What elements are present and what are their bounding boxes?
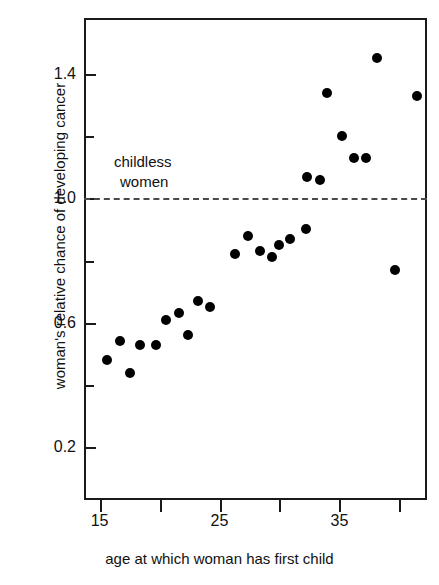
scatter-chart-figure: 0.20.61.01.4 152535 childless women woma… [0, 0, 439, 585]
x-tick-15 [100, 500, 102, 512]
data-point [151, 340, 161, 350]
data-point [267, 252, 277, 262]
scatter-points-layer [84, 18, 427, 500]
data-point [125, 368, 135, 378]
x-tick-35 [339, 500, 341, 512]
data-point [135, 340, 145, 350]
data-point [361, 153, 371, 163]
data-point [372, 53, 382, 63]
data-point [115, 336, 125, 346]
data-point [302, 172, 312, 182]
x-tick-minor-20 [160, 500, 162, 512]
x-tick-25 [220, 500, 222, 512]
data-point [315, 175, 325, 185]
x-tick-label-25: 25 [200, 512, 240, 530]
data-point [412, 91, 422, 101]
data-point [349, 153, 359, 163]
data-point [193, 296, 203, 306]
data-point [285, 234, 295, 244]
data-point [174, 308, 184, 318]
x-tick-minor-30 [279, 500, 281, 512]
data-point [243, 231, 253, 241]
data-point [183, 330, 193, 340]
x-tick-minor-40 [399, 500, 401, 512]
y-axis-title: woman's relative chance of developing ca… [52, 26, 68, 446]
x-tick-label-35: 35 [319, 512, 359, 530]
data-point [322, 88, 332, 98]
data-point [390, 265, 400, 275]
x-tick-label-15: 15 [80, 512, 120, 530]
data-point [337, 131, 347, 141]
x-axis-title: age at which woman has first child [0, 550, 439, 568]
data-point [301, 224, 311, 234]
data-point [161, 315, 171, 325]
data-point [255, 246, 265, 256]
data-point [230, 249, 240, 259]
data-point [205, 302, 215, 312]
data-point [274, 240, 284, 250]
data-point [102, 355, 112, 365]
